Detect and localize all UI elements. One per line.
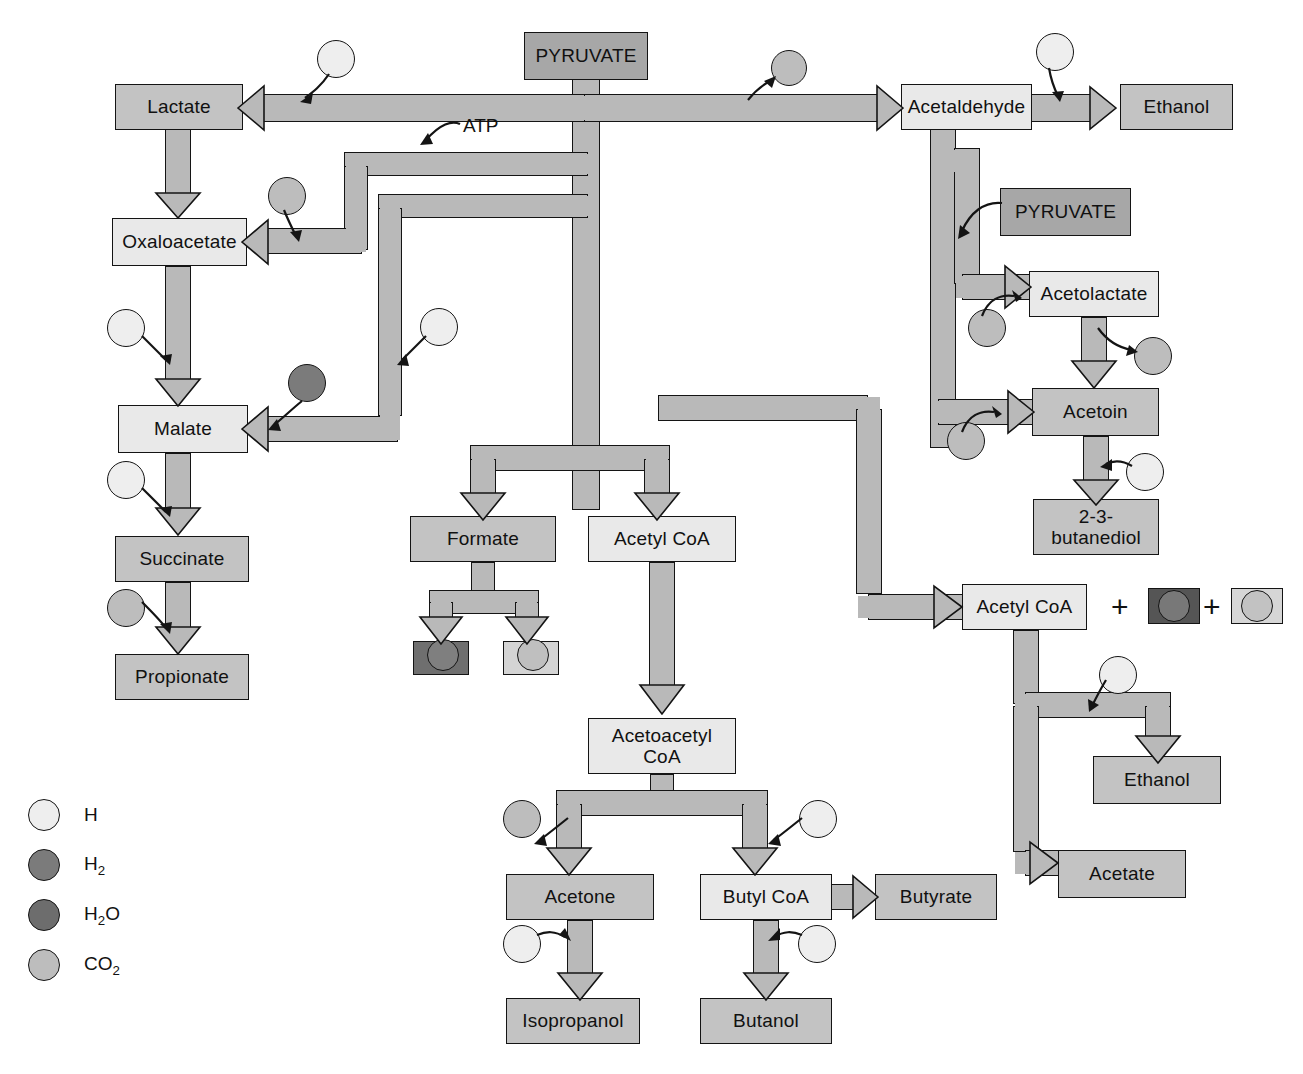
seam-5 <box>380 196 400 420</box>
metabolite-label: Ethanol <box>1124 769 1190 790</box>
curve-arrow-h2-to-malate <box>258 395 310 439</box>
seam-3 <box>346 230 366 252</box>
product-box-co2 <box>503 641 559 675</box>
metabolite-label: Succinate <box>139 548 224 569</box>
legend-item-h2: H2 <box>28 840 120 890</box>
seam-11 <box>473 592 493 612</box>
seam-22 <box>660 397 676 419</box>
metabolite-node-acetylcoa_mid: Acetyl CoA <box>588 516 736 562</box>
seam-10 <box>646 447 668 469</box>
co2-circle-icon <box>1241 590 1273 622</box>
arrowhead-butanol <box>742 970 790 1002</box>
metabolite-label: Butyl CoA <box>723 886 809 907</box>
pipe-to-acetylcoa-right-horizontal <box>658 395 868 421</box>
metabolite-node-acetoin: Acetoin <box>1032 388 1159 436</box>
seam-8 <box>574 447 598 469</box>
product-box-h2o <box>1148 588 1200 624</box>
h2o-circle-icon <box>28 899 60 931</box>
metabolite-label: Isopropanol <box>522 1010 624 1031</box>
atp-label: ATP <box>463 115 499 137</box>
seam-9 <box>472 447 494 469</box>
pipe-acetylcoaR-down2 <box>1013 706 1039 852</box>
seam-23 <box>1015 694 1037 716</box>
seam-12 <box>431 592 451 612</box>
metabolite-node-formate: Formate <box>410 516 556 562</box>
legend-label-h2o: H2O <box>84 903 120 928</box>
seam-17 <box>956 276 978 298</box>
metabolite-node-acetolactate: Acetolactate <box>1029 271 1159 317</box>
metabolite-label: Propionate <box>135 666 229 687</box>
metabolite-node-ethanol_top: Ethanol <box>1120 84 1233 130</box>
metabolite-label: Oxaloacetate <box>122 231 236 252</box>
arrowhead-acetaldehyde <box>874 84 905 132</box>
arrowhead-ethanol-right <box>1134 733 1182 765</box>
pipe-to-acetylcoa-right-vertical <box>856 409 882 594</box>
seam-19 <box>932 401 954 423</box>
arrowhead-acetoin-left <box>1005 389 1036 435</box>
seam-18 <box>932 150 978 172</box>
curve-arrow-h-to-butanediol <box>1096 452 1142 488</box>
metabolite-label: Acetate <box>1089 863 1155 884</box>
metabolite-node-isopropanol: Isopropanol <box>506 998 640 1044</box>
pipe-pyruvate-to-acetaldehyde <box>584 94 881 122</box>
metabolite-label: Acetoacetyl CoA <box>612 725 712 768</box>
arrowhead-oxaloacetate-top <box>154 190 202 220</box>
seam-6 <box>380 418 400 440</box>
curve-arrow-h-to-malate-branch <box>390 330 436 372</box>
curve-arrow-co2-to-acetolactate <box>978 290 1030 336</box>
arrowhead-ethanol-top <box>1086 85 1118 131</box>
metabolite-node-acetoacetylcoa: Acetoacetyl CoA <box>588 718 736 774</box>
arrowhead-formate <box>459 490 507 522</box>
arrowhead-formate-co2 <box>504 614 550 646</box>
legend-item-h: H <box>28 790 120 840</box>
arrowhead-acetate <box>1027 840 1060 886</box>
metabolite-node-butyrate: Butyrate <box>875 874 997 920</box>
curve-arrow-co2-from-acetoacetyl-left <box>528 812 576 854</box>
metabolite-label: Butanol <box>733 1010 799 1031</box>
metabolite-label: Acetaldehyde <box>908 96 1026 117</box>
curve-arrow-h-to-ethanol-top <box>1038 66 1074 110</box>
legend-label-h: H <box>84 804 98 826</box>
seam-7 <box>574 196 598 216</box>
curve-arrow-h-to-butylcoa <box>762 812 810 854</box>
metabolite-node-acetate: Acetate <box>1058 850 1186 898</box>
metabolite-node-butanediol: 2-3- butanediol <box>1033 499 1159 555</box>
h-circle-icon <box>28 799 60 831</box>
metabolite-node-acetone: Acetone <box>506 874 654 920</box>
metabolite-label: 2-3- butanediol <box>1051 506 1141 549</box>
arrowhead-acetylcoa-right <box>931 584 964 630</box>
curve-arrow-co2-to-oxaloacetate <box>268 208 312 252</box>
curve-arrow-h-to-succinate <box>138 482 184 524</box>
curve-arrow-co2-from-pyruvate <box>742 70 788 110</box>
metabolite-node-lactate: Lactate <box>115 84 243 130</box>
seam-15 <box>558 792 580 814</box>
curve-arrow-h-to-butanol <box>762 925 808 961</box>
metabolite-label: Acetolactate <box>1041 283 1148 304</box>
metabolite-label: PYRUVATE <box>1015 201 1116 222</box>
seam-16 <box>744 792 766 814</box>
seam-4 <box>574 154 598 174</box>
pipe-trunk-split-bar <box>470 445 670 471</box>
metabolite-node-pyruvate_right: PYRUVATE <box>1000 188 1131 236</box>
pipe-acetylcoa-to-acetoacetyl <box>649 562 675 688</box>
arrowhead-isopropanol <box>556 970 604 1002</box>
pipe-lactate-to-oxaloacetate <box>165 128 191 196</box>
metabolite-node-malate: Malate <box>118 405 248 453</box>
metabolite-label: Malate <box>154 418 212 439</box>
metabolite-label: Formate <box>447 528 519 549</box>
metabolite-label: Acetyl CoA <box>614 528 710 549</box>
plus-sign: + <box>1203 592 1221 622</box>
seam-20 <box>858 397 880 419</box>
seam-21 <box>858 596 880 618</box>
metabolite-label: Acetyl CoA <box>977 596 1073 617</box>
product-box-co2 <box>1231 588 1283 624</box>
curve-arrow-h-to-isopropanol <box>533 925 579 961</box>
h2-circle-icon <box>28 849 60 881</box>
legend: H H2 H2O CO2 <box>28 790 120 990</box>
arrowhead-oxaloacetate-left <box>240 218 270 266</box>
h2o-circle-icon <box>1158 590 1190 622</box>
metabolite-label: PYRUVATE <box>535 45 636 66</box>
curve-arrow-co2-to-acetoin <box>958 404 1008 450</box>
co2-circle-icon <box>28 949 60 981</box>
metabolite-node-butylcoa: Butyl CoA <box>700 874 832 920</box>
